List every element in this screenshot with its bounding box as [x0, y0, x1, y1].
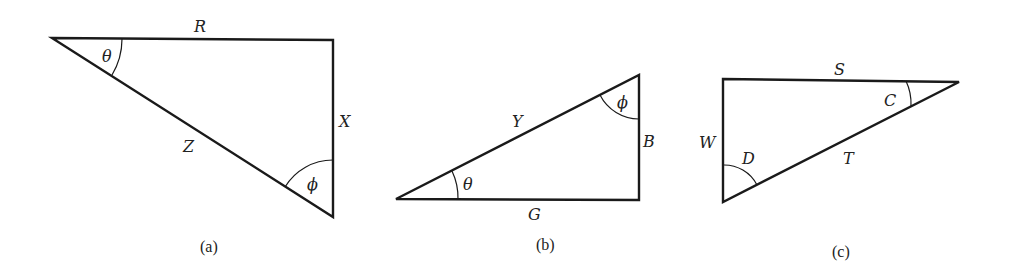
angle-label-C: C — [884, 91, 896, 110]
triangle-b-outline — [396, 75, 639, 200]
triangle-diagrams: R X Z θ ϕ (a) Y B G θ ϕ (b) S W T C D (c… — [0, 0, 1014, 276]
angle-label-phi-b: ϕ — [617, 93, 628, 112]
caption-a: (a) — [200, 238, 218, 256]
side-label-G: G — [528, 205, 541, 224]
angle-C-arc — [906, 81, 911, 106]
triangle-a: R X Z θ ϕ (a) — [52, 17, 351, 256]
triangle-a-outline — [52, 38, 333, 217]
side-label-B: B — [642, 132, 655, 151]
side-label-T: T — [843, 149, 855, 168]
angle-theta-arc-a — [112, 39, 122, 75]
angle-label-theta-b: θ — [463, 175, 473, 194]
triangle-b: Y B G θ ϕ (b) — [396, 75, 655, 254]
caption-c: (c) — [832, 243, 850, 261]
triangle-c: S W T C D (c) — [699, 60, 959, 261]
side-label-S: S — [834, 60, 845, 79]
caption-b: (b) — [536, 236, 555, 254]
side-label-W: W — [699, 133, 717, 152]
side-label-X: X — [337, 112, 351, 131]
angle-label-phi-a: ϕ — [307, 175, 318, 194]
side-label-Y: Y — [512, 112, 524, 131]
angle-label-theta-a: θ — [102, 47, 112, 66]
triangle-c-outline — [723, 79, 959, 202]
side-label-Z: Z — [182, 137, 195, 156]
angle-theta-arc-b — [452, 171, 458, 199]
side-label-R: R — [193, 17, 206, 36]
angle-label-D: D — [741, 149, 755, 168]
